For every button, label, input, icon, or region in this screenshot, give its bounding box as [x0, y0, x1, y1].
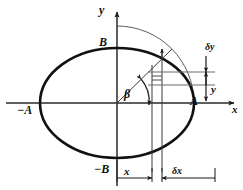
semi-major-negative-label: −A: [17, 104, 32, 116]
semi-minor-positive-label: B: [99, 36, 107, 48]
beta-angle-label: β: [124, 88, 130, 100]
x-axis-label: x: [232, 104, 238, 115]
semi-minor-negative-label: −B: [94, 163, 109, 175]
beta-angle-arc: [141, 79, 149, 105]
figure-canvas: y x A −A B −B β δy y δx x: [0, 0, 243, 190]
delta-x-label: δx: [172, 166, 182, 176]
semi-major-positive-label: A: [190, 95, 198, 107]
delta-y-label: δy: [205, 42, 215, 52]
diagram-svg: [0, 0, 243, 190]
y-coordinate-label: y: [211, 84, 216, 95]
y-axis-label: y: [99, 4, 104, 16]
x-coordinate-label: x: [124, 166, 130, 177]
